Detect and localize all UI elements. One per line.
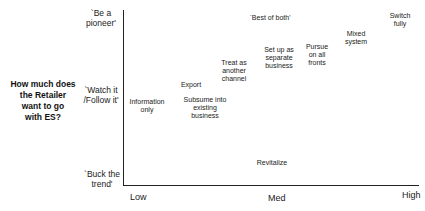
x-axis-line: [123, 185, 419, 186]
strategy-line: Information: [125, 98, 169, 106]
strategy-line: Pursue: [302, 43, 332, 51]
y-level-line: pioneer': [82, 18, 120, 28]
y-axis-question-line: want to go: [2, 101, 84, 112]
strategy-information-only: Information only: [125, 98, 169, 114]
strategy-line: fully: [384, 20, 416, 28]
strategy-set-up-as-separate-business: Set up as separate business: [258, 46, 300, 70]
strategy-line: separate: [258, 54, 300, 62]
y-level-buck-the-trend: `Buck the trend': [82, 169, 122, 189]
strategy-line: channel: [214, 75, 254, 83]
y-axis-line: [123, 10, 124, 186]
strategy-line: Treat as: [214, 59, 254, 67]
x-level-low: Low: [130, 192, 147, 202]
y-level-line: `Be a: [82, 8, 120, 18]
y-level-be-a-pioneer: `Be a pioneer': [82, 8, 120, 28]
strategy-line: system: [340, 38, 372, 46]
x-level-med: Med: [268, 193, 286, 203]
best-of-both-annotation: `Best of both': [240, 14, 300, 22]
y-level-line: /Follow it': [80, 95, 122, 105]
strategy-pursue-on-all-fronts: Pursue on all fronts: [302, 43, 332, 67]
strategy-switch-fully: Switch fully: [384, 12, 416, 28]
y-level-line: `Watch it: [80, 85, 122, 95]
strategy-line: fronts: [302, 59, 332, 67]
y-axis-question-line: How much does: [2, 79, 84, 90]
strategy-revitalize: Revitalize: [250, 159, 294, 167]
strategy-line: existing: [180, 104, 230, 112]
strategy-line: business: [258, 62, 300, 70]
strategy-treat-as-another-channel: Treat as another channel: [214, 59, 254, 83]
y-axis-question-line: with ES?: [2, 112, 84, 123]
y-level-line: trend': [82, 179, 122, 189]
strategy-line: Switch: [384, 12, 416, 20]
x-level-high: High: [402, 190, 421, 200]
strategy-line: another: [214, 67, 254, 75]
strategy-export: Export: [176, 81, 206, 89]
strategy-line: business: [180, 112, 230, 120]
y-axis-question: How much does the Retailer want to go wi…: [2, 79, 84, 123]
strategy-line: Set up as: [258, 46, 300, 54]
strategy-subsume-into-existing-business: Subsume into existing business: [180, 96, 230, 120]
strategy-line: on all: [302, 51, 332, 59]
strategy-mixed-system: Mixed system: [340, 30, 372, 46]
strategy-line: Export: [176, 81, 206, 89]
strategy-line: Mixed: [340, 30, 372, 38]
y-level-watch-it-follow-it: `Watch it /Follow it': [80, 85, 122, 105]
strategy-line: Subsume into: [180, 96, 230, 104]
strategy-line: only: [125, 106, 169, 114]
strategy-line: Revitalize: [250, 159, 294, 167]
y-level-line: `Buck the: [82, 169, 122, 179]
y-axis-question-line: the Retailer: [2, 90, 84, 101]
